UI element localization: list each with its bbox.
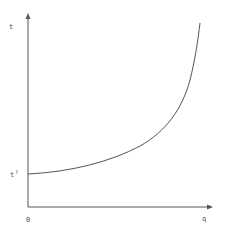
y-intercept-label: tf [10,172,18,179]
chart-canvas [0,0,227,236]
curve-t-of-q [28,23,200,174]
y-axis-label: t [9,24,13,31]
y-intercept-superscript: f [15,169,18,175]
origin-label: 0 [26,217,30,224]
y-intercept-base: t [10,171,14,179]
x-axis-label: q [202,216,206,223]
y-axis-arrow-icon [26,13,31,19]
x-axis-arrow-icon [207,205,213,210]
